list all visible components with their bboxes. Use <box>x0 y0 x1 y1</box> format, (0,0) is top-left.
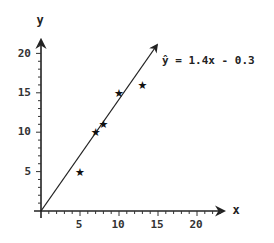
y-tick-label: 20 <box>18 47 31 60</box>
x-tick-label: 20 <box>189 218 202 231</box>
y-tick-label: 10 <box>18 125 31 138</box>
x-tick-label: 5 <box>76 218 83 231</box>
x-tick-label: 15 <box>150 218 163 231</box>
data-points: ★★★★★ <box>75 79 147 179</box>
y-minor-ticks <box>36 46 41 204</box>
star-marker-icon: ★ <box>114 87 124 100</box>
y-axis-label: y <box>36 13 43 27</box>
star-marker-icon: ★ <box>75 166 85 179</box>
x-axis-label: x <box>232 203 239 217</box>
y-tick-label: 5 <box>24 165 31 178</box>
y-tick-label: 15 <box>18 86 31 99</box>
scatter-chart: 5 10 15 20 5 10 15 20 x y ŷ = 1.4x - 0.3… <box>0 0 274 243</box>
regression-equation: ŷ = 1.4x - 0.3 <box>162 54 255 67</box>
x-tick-labels: 5 10 15 20 <box>76 218 203 231</box>
x-tick-label: 10 <box>111 218 124 231</box>
y-tick-labels: 5 10 15 20 <box>18 47 31 178</box>
star-marker-icon: ★ <box>98 118 108 131</box>
star-marker-icon: ★ <box>137 79 147 92</box>
